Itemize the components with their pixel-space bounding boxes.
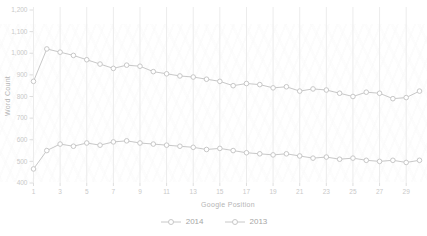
data-point bbox=[218, 146, 223, 151]
data-point bbox=[138, 64, 143, 69]
y-axis-ticks: 4005006007008009001,0001,1001,200 bbox=[11, 6, 33, 186]
data-point bbox=[257, 82, 262, 87]
x-tick-label: 15 bbox=[216, 188, 224, 195]
legend: 2014 2013 bbox=[0, 217, 427, 226]
data-point bbox=[84, 141, 89, 146]
legend-label-2013: 2013 bbox=[250, 217, 268, 226]
data-point bbox=[284, 152, 289, 157]
data-point bbox=[218, 79, 223, 84]
data-point bbox=[271, 153, 276, 158]
data-point bbox=[284, 84, 289, 89]
data-point bbox=[111, 140, 116, 145]
gridlines bbox=[34, 7, 407, 183]
data-point bbox=[31, 79, 36, 84]
x-tick-label: 1 bbox=[32, 188, 36, 195]
data-point bbox=[404, 160, 409, 165]
line-marker-icon bbox=[160, 218, 182, 226]
data-point bbox=[377, 91, 382, 96]
data-point bbox=[45, 47, 50, 52]
data-point bbox=[351, 94, 356, 99]
data-point bbox=[164, 143, 169, 148]
x-tick-label: 17 bbox=[243, 188, 251, 195]
line-marker-icon bbox=[224, 218, 246, 226]
x-tick-label: 29 bbox=[403, 188, 411, 195]
data-point bbox=[244, 81, 249, 86]
data-point bbox=[204, 77, 209, 82]
data-point bbox=[178, 144, 183, 149]
data-point bbox=[271, 86, 276, 91]
data-point bbox=[391, 96, 396, 101]
data-point bbox=[204, 147, 209, 152]
y-tick-label: 1,000 bbox=[11, 49, 28, 56]
data-point bbox=[337, 91, 342, 96]
data-point bbox=[324, 88, 329, 93]
data-point bbox=[231, 83, 236, 88]
data-point bbox=[45, 148, 50, 153]
x-tick-label: 23 bbox=[323, 188, 331, 195]
data-point bbox=[351, 156, 356, 161]
data-point bbox=[417, 158, 422, 163]
data-point bbox=[311, 156, 316, 161]
data-point bbox=[124, 63, 129, 68]
y-axis-title: Word Count bbox=[4, 76, 11, 116]
data-point bbox=[297, 154, 302, 159]
data-point bbox=[231, 148, 236, 153]
x-tick-label: 13 bbox=[190, 188, 198, 195]
x-tick-label: 9 bbox=[138, 188, 142, 195]
x-tick-label: 19 bbox=[269, 188, 277, 195]
data-point bbox=[404, 95, 409, 100]
data-point bbox=[138, 141, 143, 146]
x-axis-title: Google Position bbox=[201, 201, 255, 208]
legend-item-2014: 2014 bbox=[160, 217, 204, 226]
x-axis-ticks: 1357911131517192123252729 bbox=[32, 183, 410, 195]
y-tick-label: 800 bbox=[17, 93, 28, 100]
data-point bbox=[98, 62, 103, 67]
word-count-line-chart: 4005006007008009001,0001,1001,2001357911… bbox=[0, 0, 427, 236]
data-point bbox=[244, 150, 249, 155]
data-point bbox=[417, 89, 422, 94]
data-point bbox=[98, 143, 103, 148]
series-2014 bbox=[31, 47, 422, 101]
y-tick-label: 900 bbox=[17, 71, 28, 78]
data-point bbox=[84, 57, 89, 62]
data-point bbox=[257, 152, 262, 157]
data-point bbox=[58, 50, 63, 55]
y-tick-label: 500 bbox=[17, 158, 28, 165]
x-tick-label: 7 bbox=[112, 188, 116, 195]
x-tick-label: 11 bbox=[163, 188, 170, 195]
x-tick-label: 25 bbox=[349, 188, 357, 195]
data-point bbox=[391, 158, 396, 163]
data-point bbox=[151, 69, 156, 74]
data-point bbox=[311, 87, 316, 92]
y-tick-label: 700 bbox=[17, 114, 28, 121]
data-point bbox=[111, 66, 116, 71]
data-point bbox=[191, 75, 196, 80]
y-tick-label: 400 bbox=[17, 179, 28, 186]
y-tick-label: 600 bbox=[17, 136, 28, 143]
data-point bbox=[364, 158, 369, 163]
data-point bbox=[31, 167, 36, 172]
data-point bbox=[324, 155, 329, 160]
data-point bbox=[377, 159, 382, 164]
data-point bbox=[71, 53, 76, 58]
legend-label-2014: 2014 bbox=[186, 217, 204, 226]
data-point bbox=[151, 142, 156, 147]
x-tick-label: 5 bbox=[85, 188, 89, 195]
data-point bbox=[124, 139, 129, 144]
data-point bbox=[71, 144, 76, 149]
legend-item-2013: 2013 bbox=[224, 217, 268, 226]
y-tick-label: 1,100 bbox=[11, 28, 28, 35]
x-tick-label: 21 bbox=[296, 188, 304, 195]
data-point bbox=[364, 90, 369, 95]
data-point bbox=[297, 89, 302, 94]
data-point bbox=[164, 71, 169, 76]
x-tick-label: 27 bbox=[376, 188, 384, 195]
data-point bbox=[191, 145, 196, 150]
data-point bbox=[178, 74, 183, 79]
x-tick-label: 3 bbox=[58, 188, 62, 195]
data-point bbox=[337, 157, 342, 162]
data-point bbox=[58, 142, 63, 147]
y-tick-label: 1,200 bbox=[11, 6, 28, 13]
series-2013 bbox=[31, 139, 422, 172]
